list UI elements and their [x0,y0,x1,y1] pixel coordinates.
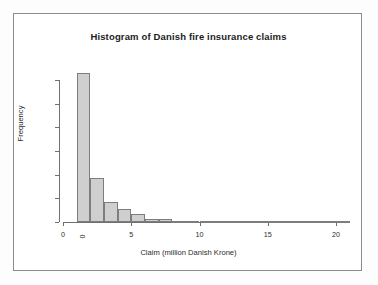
x-axis-label: Claim (million Danish Krone) [14,248,363,257]
histogram-bar [90,178,104,222]
histogram-bar [200,221,214,223]
histogram-bar [240,221,254,223]
y-tick [55,80,59,81]
histogram-bar [131,214,145,222]
chart-title: Histogram of Danish fire insurance claim… [14,31,363,42]
histogram-bar [268,221,282,223]
histogram-plot: Histogram of Danish fire insurance claim… [14,14,363,272]
histogram-bar [159,219,173,222]
y-tick [55,175,59,176]
y-tick [55,198,59,199]
x-tick [63,222,64,226]
screenshot-canvas: Histogram of Danish fire insurance claim… [0,0,378,285]
histogram-bar [118,209,132,222]
histogram-bar [186,221,200,223]
histogram-bar [336,221,350,223]
histogram-bar [104,202,118,222]
x-tick-label: 5 [117,230,145,239]
y-tick [55,127,59,128]
y-tick [55,104,59,105]
histogram-bar [322,221,336,223]
y-axis-label: Frequency [16,94,25,154]
x-tick [131,222,132,226]
y-tick [55,151,59,152]
histogram-bar [145,219,159,222]
histogram-bar [309,221,323,223]
histogram-bar [172,221,186,223]
histogram-bar [77,73,91,222]
histogram-bar [295,221,309,223]
x-tick-label: 0 [49,230,77,239]
y-axis-line [59,80,60,222]
x-tick-label: 20 [322,230,350,239]
histogram-bar [213,221,227,223]
histogram-bar [227,221,241,223]
y-tick [55,222,59,223]
x-tick-label: 10 [186,230,214,239]
histogram-bar [281,221,295,223]
histogram-bar [254,221,268,223]
document-page-frame: Histogram of Danish fire insurance claim… [13,13,362,271]
x-tick-label: 15 [254,230,282,239]
